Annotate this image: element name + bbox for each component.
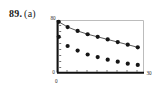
data-point bbox=[106, 58, 110, 62]
data-point bbox=[136, 63, 140, 67]
data-point bbox=[96, 55, 100, 59]
lower-series-points bbox=[57, 35, 140, 67]
data-point bbox=[136, 45, 140, 49]
part-letter: (a) bbox=[24, 8, 36, 19]
y-axis-min-label: 0 bbox=[52, 69, 55, 75]
x-axis-max-label: 30 bbox=[147, 70, 153, 76]
data-point bbox=[66, 25, 70, 29]
x-axis-min-label: 0 bbox=[55, 78, 58, 84]
scatter-plot: 80 0 0 30 bbox=[48, 13, 156, 93]
upper-series-line bbox=[59, 22, 138, 47]
problem-label: 89.(a) bbox=[9, 8, 36, 20]
data-point bbox=[66, 44, 70, 48]
data-point bbox=[76, 29, 80, 33]
y-axis bbox=[58, 20, 62, 73]
plot-area: 80 0 0 30 bbox=[48, 13, 156, 93]
data-point bbox=[116, 60, 120, 64]
data-point bbox=[86, 32, 90, 36]
data-point bbox=[76, 48, 80, 52]
figure-container: 89.(a) bbox=[0, 0, 158, 94]
data-point bbox=[57, 20, 61, 24]
y-axis-max-label: 80 bbox=[51, 15, 57, 21]
x-axis bbox=[57, 70, 144, 73]
data-point bbox=[86, 52, 90, 56]
data-point bbox=[126, 62, 130, 66]
data-point bbox=[126, 43, 130, 47]
data-point bbox=[96, 35, 100, 39]
data-point bbox=[106, 37, 110, 41]
problem-number: 89. bbox=[9, 8, 22, 19]
data-point bbox=[57, 35, 61, 39]
data-point bbox=[116, 40, 120, 44]
